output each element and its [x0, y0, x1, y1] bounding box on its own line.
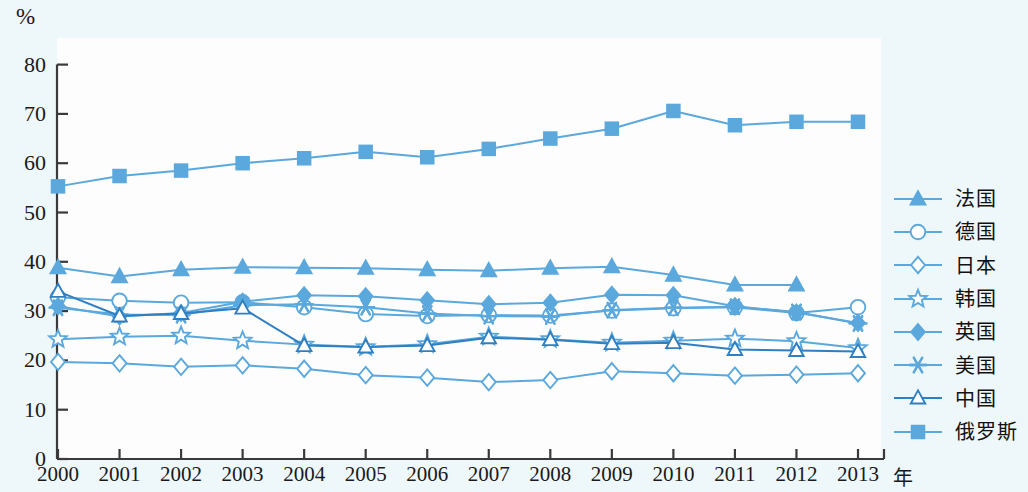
chart-plot-svg [0, 0, 1028, 492]
data-point-marker [174, 359, 188, 375]
legend-item-法国[interactable]: 法国 [893, 181, 1023, 214]
legend-item-日本[interactable]: 日本 [893, 248, 1023, 281]
data-point-marker [112, 293, 127, 308]
data-point-marker [297, 361, 311, 377]
data-point-marker [172, 327, 190, 344]
legend-marker-triangle-open-icon [893, 386, 943, 408]
data-point-marker [113, 170, 126, 183]
legend-label: 德国 [955, 216, 997, 245]
data-point-marker [420, 369, 434, 385]
legend-label: 中国 [955, 383, 997, 412]
data-point-marker [851, 365, 865, 381]
legend-label: 英国 [955, 316, 997, 345]
legend-marker-diamond-open-icon [893, 253, 943, 275]
legend-marker-asterisk-icon [893, 353, 943, 375]
data-point-marker [790, 115, 803, 128]
data-point-marker [605, 363, 619, 379]
data-point-marker [51, 354, 65, 370]
data-point-marker [909, 289, 927, 306]
data-point-marker [667, 105, 680, 118]
data-point-marker [298, 152, 311, 165]
data-point-marker [852, 115, 865, 128]
data-point-marker [234, 331, 252, 348]
legend-marker-square-filled-icon [893, 420, 943, 442]
series-日本 [51, 354, 865, 391]
legend-item-俄罗斯[interactable]: 俄罗斯 [893, 414, 1023, 447]
legend-marker-diamond-filled-icon [893, 320, 943, 342]
data-point-marker [605, 287, 619, 303]
legend-marker-triangle-filled-icon [893, 187, 943, 209]
data-point-marker [359, 288, 373, 304]
series-俄罗斯 [52, 105, 865, 193]
data-point-marker [359, 146, 372, 159]
legend-item-德国[interactable]: 德国 [893, 214, 1023, 247]
data-point-marker [666, 365, 680, 381]
data-point-marker [482, 374, 496, 390]
data-point-marker [606, 122, 619, 135]
data-point-marker [49, 330, 67, 347]
chart-figure: % 年 01020304050607080 200020012002200320… [0, 0, 1028, 492]
legend-label: 日本 [955, 250, 997, 279]
data-point-marker [235, 259, 250, 272]
legend-item-美国[interactable]: 美国 [893, 347, 1023, 380]
data-point-marker [910, 358, 927, 373]
data-point-marker [358, 260, 373, 273]
data-point-marker [236, 357, 250, 373]
legend-marker-circle-open-icon [893, 220, 943, 242]
data-point-marker [851, 300, 866, 315]
data-point-marker [175, 164, 188, 177]
data-point-marker [789, 277, 804, 290]
data-point-marker [236, 157, 249, 170]
data-point-marker [729, 119, 742, 132]
data-point-marker [911, 191, 926, 204]
data-point-marker [111, 328, 128, 345]
legend-marker-star-open-icon [893, 287, 943, 309]
data-point-marker [113, 355, 127, 371]
data-point-marker [544, 132, 557, 145]
data-point-marker [297, 260, 312, 273]
data-point-marker [728, 367, 742, 383]
legend-label: 法国 [955, 183, 997, 212]
data-point-marker [911, 391, 925, 404]
data-point-marker [911, 257, 925, 273]
legend-label: 韩国 [955, 283, 997, 312]
data-point-marker [543, 372, 557, 388]
data-point-marker [789, 366, 803, 382]
data-point-marker [359, 367, 373, 383]
data-point-marker [912, 425, 925, 438]
legend-item-中国[interactable]: 中国 [893, 381, 1023, 414]
data-point-marker [51, 284, 65, 297]
legend-label: 美国 [955, 350, 997, 379]
data-point-marker [911, 225, 926, 240]
data-point-marker [604, 259, 619, 272]
data-point-marker [911, 324, 925, 340]
data-point-marker [52, 180, 65, 193]
series-中国 [51, 284, 865, 357]
data-point-marker [482, 143, 495, 156]
legend-item-韩国[interactable]: 韩国 [893, 281, 1023, 314]
chart-legend: 法国德国日本韩国英国美国中国俄罗斯 [893, 181, 1023, 447]
data-point-marker [421, 151, 434, 164]
series-法国 [51, 259, 804, 291]
legend-item-英国[interactable]: 英国 [893, 314, 1023, 347]
legend-label: 俄罗斯 [955, 416, 1018, 445]
